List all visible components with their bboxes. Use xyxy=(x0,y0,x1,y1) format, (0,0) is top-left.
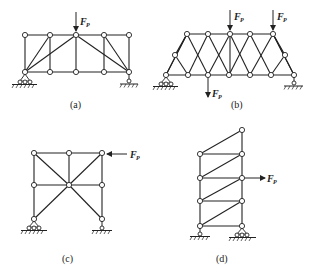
force-b-3: F P xyxy=(208,78,222,100)
support-b-right xyxy=(284,77,303,90)
caption-a: (a) xyxy=(70,99,81,111)
truss-c: F P (c) xyxy=(21,149,140,265)
caption-c: (c) xyxy=(62,253,73,265)
force-c: F P xyxy=(107,149,140,161)
caption-b: (b) xyxy=(231,99,243,111)
force-a: F P xyxy=(76,12,90,31)
support-c-left xyxy=(21,221,47,234)
force-b-2: F P xyxy=(273,10,287,30)
support-a-left xyxy=(12,74,37,88)
support-b-left xyxy=(153,77,178,90)
svg-text:P: P xyxy=(218,94,222,100)
support-c-right xyxy=(92,221,112,234)
svg-text:P: P xyxy=(136,155,140,161)
force-d: F P xyxy=(245,173,277,185)
svg-text:P: P xyxy=(273,179,277,185)
support-d-left xyxy=(190,228,210,240)
truss-a-nodes xyxy=(22,32,131,74)
truss-a: F P (a) xyxy=(12,12,138,111)
svg-text:P: P xyxy=(283,17,287,23)
svg-text:P: P xyxy=(240,17,244,23)
force-b-1: F P xyxy=(230,10,244,30)
force-subscript: P xyxy=(86,22,90,28)
caption-d: (d) xyxy=(216,253,228,265)
support-a-right xyxy=(120,74,138,88)
truss-d: F P (d) xyxy=(190,127,277,265)
truss-b: F P F P F P (b) xyxy=(153,10,303,111)
